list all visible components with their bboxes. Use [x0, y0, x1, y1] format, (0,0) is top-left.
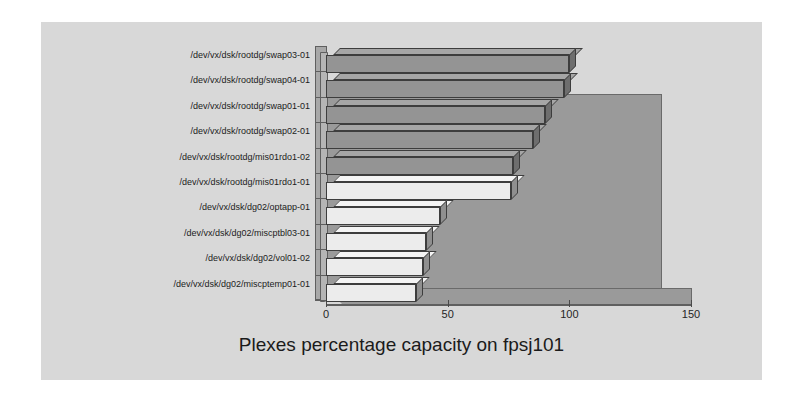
- bar: [326, 175, 518, 200]
- value-axis-tick: [691, 300, 692, 307]
- bar-front-face: [326, 80, 564, 98]
- bar-top-face: [333, 48, 583, 55]
- category-axis-label: /dev/vx/dsk/dg02/vol01-02: [205, 253, 310, 263]
- category-axis-label: /dev/vx/dsk/dg02/miscptbl03-01: [184, 228, 310, 238]
- category-axis-labels: /dev/vx/dsk/rootdg/swap03-01/dev/vx/dsk/…: [60, 46, 310, 300]
- category-axis-label: /dev/vx/dsk/rootdg/mis01rdo1-02: [179, 152, 310, 162]
- value-axis-tick-label: 100: [560, 308, 578, 320]
- bar-top-face: [333, 175, 525, 182]
- category-axis-label: /dev/vx/dsk/dg02/optapp-01: [199, 202, 310, 212]
- bar-side-face: [564, 73, 571, 98]
- chart-screenshot: /dev/vx/dsk/rootdg/swap03-01/dev/vx/dsk/…: [0, 0, 798, 402]
- bar-front-face: [326, 233, 426, 251]
- bar-front-face: [326, 207, 440, 225]
- category-axis-label: /dev/vx/dsk/rootdg/swap01-01: [190, 101, 310, 111]
- category-axis-tick: [315, 46, 327, 47]
- category-axis-label: /dev/vx/dsk/rootdg/swap03-01: [190, 50, 310, 60]
- category-axis-label: /dev/vx/dsk/dg02/miscptemp01-01: [173, 279, 310, 289]
- category-axis-label: /dev/vx/dsk/rootdg/mis01rdo1-01: [179, 177, 310, 187]
- bar-side-face: [569, 48, 576, 73]
- bar-top-face: [333, 99, 559, 106]
- bar-front-face: [326, 55, 569, 73]
- bar: [326, 99, 552, 124]
- bar-top-face: [333, 226, 440, 233]
- bar-front-face: [326, 131, 533, 149]
- bar-front-face: [326, 284, 416, 302]
- bar: [326, 200, 447, 225]
- bar-side-face: [423, 251, 430, 276]
- bar: [326, 251, 430, 276]
- bar: [326, 150, 520, 175]
- bar-front-face: [326, 157, 513, 175]
- bar-front-face: [326, 106, 545, 124]
- bar-front-face: [326, 258, 423, 276]
- category-axis-label: /dev/vx/dsk/rootdg/swap02-01: [190, 126, 310, 136]
- bar-top-face: [333, 251, 437, 258]
- value-axis-tick-label: 0: [323, 308, 329, 320]
- bar-top-face: [333, 200, 454, 207]
- value-axis-tick: [569, 300, 570, 307]
- bar-top-face: [333, 277, 430, 284]
- value-axis-line: [326, 304, 692, 306]
- bar-top-face: [333, 73, 578, 80]
- bar-top-face: [333, 124, 547, 131]
- category-axis-label: /dev/vx/dsk/rootdg/swap04-01: [190, 75, 310, 85]
- value-axis-tick: [448, 300, 449, 307]
- bar: [326, 277, 423, 302]
- bar-top-face: [333, 150, 527, 157]
- bar: [326, 73, 571, 98]
- bar-side-face: [440, 200, 447, 225]
- bar: [326, 124, 540, 149]
- bar: [326, 226, 433, 251]
- value-axis-tick-label: 50: [442, 308, 454, 320]
- chart-title: Plexes percentage capacity on fpsj101: [41, 334, 762, 356]
- value-axis-tick-label: 150: [682, 308, 700, 320]
- bar: [326, 48, 576, 73]
- bar-front-face: [326, 182, 511, 200]
